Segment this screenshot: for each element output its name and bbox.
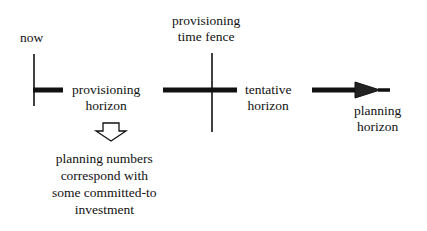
label-line: provisioning xyxy=(172,13,240,29)
down-arrow-icon xyxy=(96,123,126,141)
label-provisioning-horizon: provisioning horizon xyxy=(72,82,140,114)
label-now: now xyxy=(20,30,43,46)
label-line: time fence xyxy=(172,29,240,45)
note-line: planning numbers xyxy=(52,150,157,167)
label-line: horizon xyxy=(72,98,140,114)
note-committed-investment: planning numbers correspond with some co… xyxy=(52,150,157,218)
label-line: planning xyxy=(354,103,401,119)
label-planning-horizon: planning horizon xyxy=(354,103,401,135)
note-line: correspond with xyxy=(52,167,157,184)
label-line: tentative xyxy=(245,82,291,98)
note-line: some committed-to xyxy=(52,184,157,201)
arrowhead-icon xyxy=(355,82,380,98)
label-tentative-horizon: tentative horizon xyxy=(245,82,291,114)
label-line: horizon xyxy=(245,98,291,114)
note-line: investment xyxy=(52,201,157,218)
label-line: provisioning xyxy=(72,82,140,98)
label-provisioning-time-fence: provisioning time fence xyxy=(172,13,240,45)
label-line: horizon xyxy=(354,119,401,135)
